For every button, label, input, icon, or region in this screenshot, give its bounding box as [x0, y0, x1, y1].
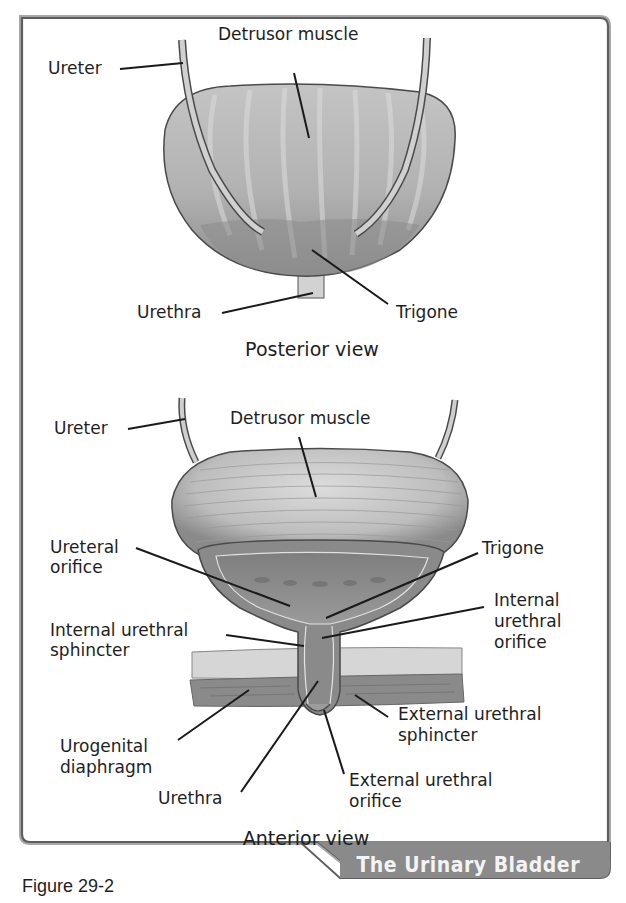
- label-external-orifice-2: orifice: [349, 791, 402, 811]
- label-internal-sphincter-2: sphincter: [50, 640, 129, 660]
- caption-anterior-view: Anterior view: [243, 827, 370, 849]
- label-anterior-ureter: Ureter: [54, 418, 108, 438]
- figure-number: Figure 29-2: [22, 876, 114, 896]
- urinary-bladder-figure: The Urinary Bladder Figure 29-2 Ureter D…: [0, 0, 626, 903]
- label-urogenital-1: Urogenital: [60, 736, 148, 756]
- label-ureteral-orifice-2: orifice: [50, 557, 103, 577]
- label-internal-orifice-3: orifice: [494, 632, 547, 652]
- label-external-orifice-1: External urethral: [349, 770, 492, 790]
- label-posterior-ureter: Ureter: [48, 58, 102, 78]
- label-internal-orifice-1: Internal: [494, 590, 560, 610]
- label-posterior-trigone: Trigone: [395, 302, 458, 322]
- label-internal-sphincter-1: Internal urethral: [50, 620, 188, 640]
- label-urogenital-2: diaphragm: [60, 757, 152, 777]
- label-external-sphincter-2: sphincter: [398, 725, 477, 745]
- label-posterior-urethra: Urethra: [137, 302, 201, 322]
- label-external-sphincter-1: External urethral: [398, 704, 541, 724]
- figure-title-tab: The Urinary Bladder: [356, 853, 580, 877]
- label-posterior-detrusor: Detrusor muscle: [218, 24, 358, 44]
- label-internal-orifice-2: urethral: [494, 611, 561, 631]
- caption-posterior-view: Posterior view: [245, 338, 379, 360]
- label-anterior-urethra: Urethra: [158, 788, 222, 808]
- label-ureteral-orifice-1: Ureteral: [50, 537, 119, 557]
- label-anterior-trigone: Trigone: [481, 538, 544, 558]
- label-anterior-detrusor: Detrusor muscle: [230, 408, 370, 428]
